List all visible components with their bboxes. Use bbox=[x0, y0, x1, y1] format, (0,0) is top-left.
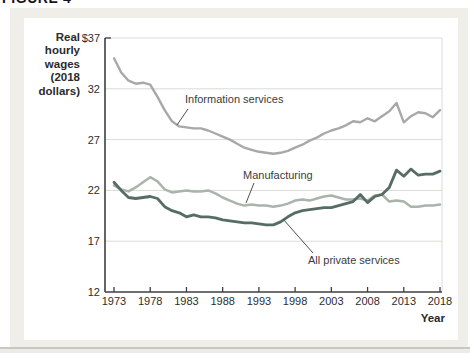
figure-page: { "figure": { "header_label": "FIGURE 4"… bbox=[0, 0, 470, 353]
series-label-manufacturing: Manufacturing bbox=[243, 169, 313, 181]
y-tick-label: 17 bbox=[88, 235, 100, 247]
x-tick-label: 1983 bbox=[174, 295, 198, 307]
wage-line-chart: $373227221712197319781983198819931998200… bbox=[0, 0, 470, 353]
label-leader-line bbox=[246, 183, 254, 203]
y-tick-label: 32 bbox=[88, 83, 100, 95]
x-tick-label: 1978 bbox=[138, 295, 162, 307]
y-tick-label: 27 bbox=[88, 134, 100, 146]
series-label-all-private-services: All private services bbox=[308, 254, 400, 266]
x-tick-label: 2018 bbox=[428, 295, 452, 307]
y-tick-label: 22 bbox=[88, 184, 100, 196]
series-label-information-services: Information services bbox=[185, 93, 284, 105]
label-leader-line bbox=[283, 219, 313, 253]
y-tick-label: $37 bbox=[82, 32, 100, 44]
x-tick-label: 2008 bbox=[355, 295, 379, 307]
y-tick-label: 12 bbox=[88, 286, 100, 298]
x-tick-label: 1973 bbox=[102, 295, 126, 307]
label-leader-line bbox=[177, 109, 188, 125]
x-tick-label: 1998 bbox=[283, 295, 307, 307]
x-tick-label: 1988 bbox=[210, 295, 234, 307]
x-tick-label: 2013 bbox=[392, 295, 416, 307]
x-tick-label: 1993 bbox=[247, 295, 271, 307]
x-tick-label: 2003 bbox=[319, 295, 343, 307]
